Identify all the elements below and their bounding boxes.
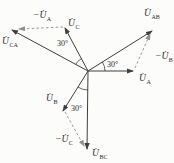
label-minus-u-b-main: −U̇ — [155, 51, 169, 61]
arc-uca-uc — [76, 59, 82, 65]
arc-ua-uab — [102, 62, 105, 71]
label-u-bc: U̇BC — [92, 148, 107, 160]
vector-minus-u-b — [135, 34, 150, 68]
angle-label-ua-uab: 30° — [107, 60, 118, 69]
label-minus-u-c: −U̇C — [55, 134, 73, 146]
label-u-b-sub: B — [53, 99, 57, 105]
arc-ub-ubc — [78, 87, 88, 90]
figure-canvas: U̇CA −U̇A U̇C U̇AB −U̇B U̇A U̇B −U̇C U̇B… — [0, 0, 174, 163]
label-minus-u-c-sub: C — [69, 140, 73, 146]
label-u-ca: U̇CA — [2, 36, 18, 48]
label-u-c: U̇C — [68, 18, 79, 30]
label-minus-u-b: −U̇B — [155, 51, 173, 63]
label-minus-u-c-main: −U̇ — [55, 134, 69, 144]
label-u-ab-sub: AB — [151, 14, 159, 20]
label-u-bc-sub: BC — [99, 154, 107, 160]
solid-phasors — [12, 28, 152, 149]
label-u-a-sub: A — [146, 79, 151, 85]
label-u-b: U̇B — [46, 93, 57, 105]
label-minus-u-a-sub: A — [47, 16, 52, 22]
vector-u-bc — [87, 71, 88, 149]
label-u-ca-sub: CA — [9, 42, 18, 48]
label-u-ab: U̇AB — [144, 8, 160, 20]
label-u-c-sub: C — [75, 24, 79, 30]
vector-minus-u-a — [19, 27, 63, 29]
label-minus-u-a-main: −U̇ — [33, 10, 47, 20]
label-u-a: U̇A — [139, 73, 151, 85]
phasor-diagram: U̇CA −U̇A U̇C U̇AB −U̇B U̇A U̇B −U̇C U̇B… — [0, 0, 174, 163]
label-minus-u-b-sub: B — [169, 57, 173, 63]
label-minus-u-a: −U̇A — [33, 10, 52, 22]
angle-label-ub-ubc: 30° — [71, 104, 82, 113]
angle-label-uca-uc: 30° — [57, 39, 68, 48]
vector-u-ab — [88, 31, 152, 71]
